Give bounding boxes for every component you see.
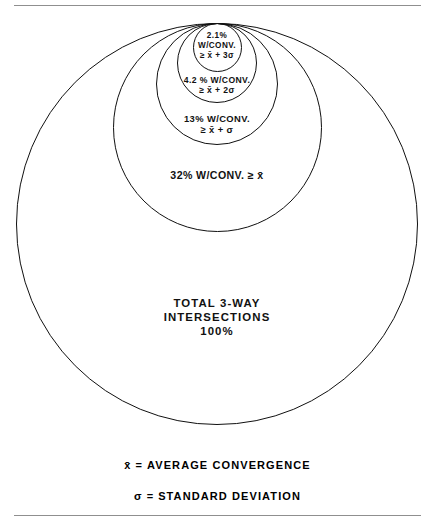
- bottom-divider-rule: [14, 515, 421, 516]
- label-circle-2-1-percent: 2.1% W/CONV. ≥ x̄ + 3σ: [177, 31, 257, 61]
- label-circle-32-percent: 32% W/CONV. ≥ x̄: [127, 169, 307, 182]
- legend-text-standard-deviation: STANDARD DEVIATION: [158, 490, 301, 502]
- label-circle-4-2-percent: 4.2 % W/CONV. ≥ x̄ + 2σ: [152, 75, 282, 96]
- legend-symbol-sigma: σ: [134, 490, 143, 502]
- legend-equals-1: =: [143, 490, 159, 502]
- nested-circle-figure: 2.1% W/CONV. ≥ x̄ + 3σ 4.2 % W/CONV. ≥ x…: [0, 0, 435, 524]
- legend-equals-0: =: [131, 459, 147, 471]
- label-circle-13-percent: 13% W/CONV. ≥ x̄ + σ: [142, 113, 292, 136]
- top-divider-rule: [14, 5, 421, 6]
- legend-row-average-convergence: x̄=AVERAGE CONVERGENCE: [0, 459, 435, 471]
- legend-text-average-convergence: AVERAGE CONVERGENCE: [147, 459, 311, 471]
- label-circle-total-100: TOTAL 3-WAY INTERSECTIONS 100%: [127, 297, 307, 339]
- legend-row-standard-deviation: σ=STANDARD DEVIATION: [0, 490, 435, 502]
